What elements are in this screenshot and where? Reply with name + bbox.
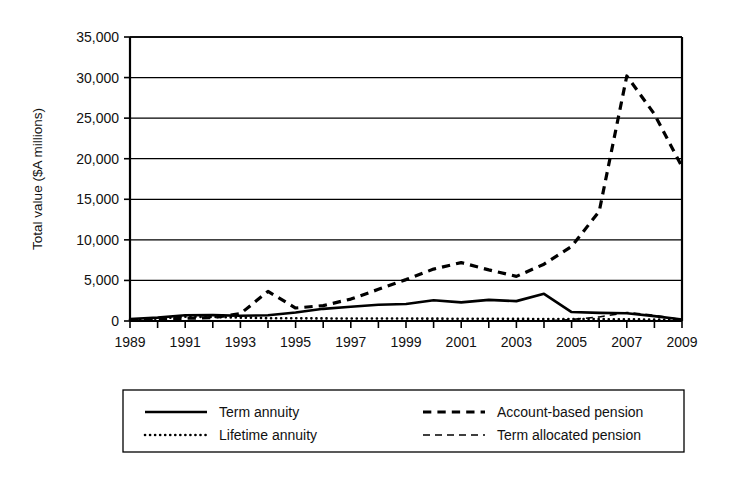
ytick-label-30000: 30,000: [76, 70, 119, 86]
xtick-label-1993: 1993: [225, 334, 256, 350]
ytick-label-5000: 5,000: [84, 272, 119, 288]
gridlines-group: 05,00010,00015,00020,00025,00030,00035,0…: [76, 29, 682, 329]
legend-item-lifetime-annuity-label: Lifetime annuity: [219, 427, 317, 443]
xtick-label-1991: 1991: [170, 334, 201, 350]
ytick-label-0: 0: [111, 313, 119, 329]
xtick-label-1995: 1995: [280, 334, 311, 350]
ytick-label-35000: 35,000: [76, 29, 119, 45]
legend-item-account-based-pension[interactable]: Account-based pension: [423, 404, 643, 420]
series-group: [130, 76, 682, 321]
line-chart-svg: 05,00010,00015,00020,00025,00030,00035,0…: [0, 0, 736, 487]
chart-figure: 05,00010,00015,00020,00025,00030,00035,0…: [0, 0, 736, 487]
legend-item-term-allocated-pension[interactable]: Term allocated pension: [423, 427, 641, 443]
xtick-label-2009: 2009: [666, 334, 697, 350]
ytick-label-15000: 15,000: [76, 191, 119, 207]
legend-item-term-annuity-label: Term annuity: [219, 404, 299, 420]
y-axis-title: Total value ($A millions): [30, 108, 45, 250]
series-line-account-based-pension: [130, 76, 682, 320]
ytick-label-20000: 20,000: [76, 151, 119, 167]
ytick-label-25000: 25,000: [76, 110, 119, 126]
xtick-label-2005: 2005: [556, 334, 587, 350]
xtick-label-2007: 2007: [611, 334, 642, 350]
xaxis-group: 1989199119931995199719992001200320052007…: [114, 321, 697, 350]
legend-item-term-allocated-pension-label: Term allocated pension: [497, 427, 641, 443]
xtick-label-2003: 2003: [501, 334, 532, 350]
xtick-label-1999: 1999: [390, 334, 421, 350]
legend-item-term-annuity[interactable]: Term annuity: [145, 404, 299, 420]
xtick-label-1989: 1989: [114, 334, 145, 350]
legend-item-account-based-pension-label: Account-based pension: [497, 404, 643, 420]
legend: Term annuityLifetime annuityAccount-base…: [123, 390, 684, 452]
xtick-label-2001: 2001: [446, 334, 477, 350]
legend-item-lifetime-annuity[interactable]: Lifetime annuity: [145, 427, 317, 443]
xtick-label-1997: 1997: [335, 334, 366, 350]
ytick-label-10000: 10,000: [76, 232, 119, 248]
series-line-term-annuity: [130, 294, 682, 320]
